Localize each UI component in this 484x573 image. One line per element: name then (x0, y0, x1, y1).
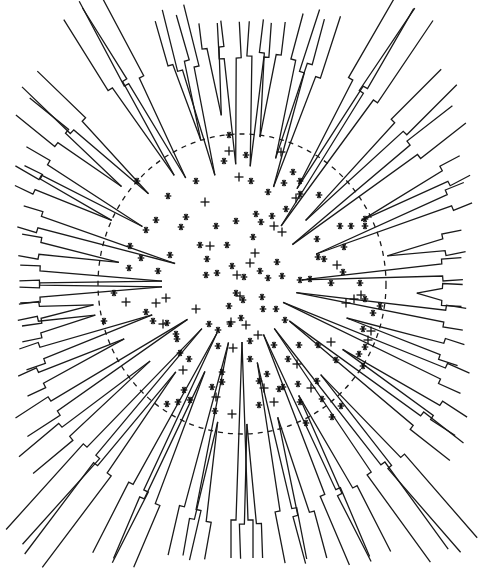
figure-background (0, 0, 484, 573)
radial-spoke-diagram (0, 0, 484, 573)
